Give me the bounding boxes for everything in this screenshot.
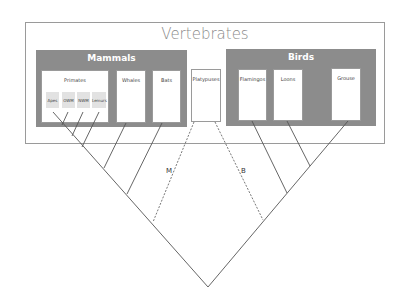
lemurs-branch [82,112,99,147]
bats-branch [127,123,162,194]
platypus-bird-branch [215,122,263,220]
nwm-branch [72,112,83,136]
loons-branch [287,121,310,166]
mammal-branch-label: M [166,167,172,175]
grouse-branch [208,121,348,287]
owm-branch [62,112,68,125]
flamingos-branch [252,121,287,193]
platypus-mammal-branch [153,122,194,222]
whales-branch [104,123,126,168]
apes-branch [53,112,208,287]
phylogenetic-tree [0,0,405,306]
bird-branch-label: B [241,167,246,175]
